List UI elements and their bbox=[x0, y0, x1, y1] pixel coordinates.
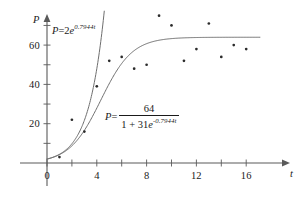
data-point bbox=[158, 14, 161, 17]
data-point bbox=[245, 48, 248, 51]
y-tick-label: 20 bbox=[29, 118, 40, 129]
data-point bbox=[183, 59, 186, 62]
data-point bbox=[170, 24, 173, 27]
data-point bbox=[232, 44, 235, 47]
x-tick-label: 4 bbox=[94, 170, 99, 181]
x-axis-arrow-icon bbox=[282, 160, 290, 167]
data-point bbox=[83, 130, 86, 133]
x-axis-label: t bbox=[290, 168, 293, 179]
exponential-exponent: 0.7944t bbox=[74, 23, 95, 30]
logistic-denominator: 1 + 31e-0.7944t bbox=[119, 117, 178, 130]
logistic-fraction: 641 + 31e-0.7944t bbox=[119, 103, 178, 130]
logistic-denominator-lead: 1 + 31 bbox=[121, 118, 148, 129]
data-point bbox=[133, 67, 136, 70]
data-point bbox=[95, 85, 98, 88]
logistic-curve bbox=[47, 37, 260, 159]
data-point bbox=[220, 56, 223, 59]
y-axis-label: P bbox=[33, 14, 39, 25]
data-point bbox=[208, 22, 211, 25]
data-point bbox=[71, 118, 74, 121]
x-tick-label: 8 bbox=[144, 170, 149, 181]
x-tick-label: 12 bbox=[191, 170, 202, 181]
data-point bbox=[195, 48, 198, 51]
axes-group bbox=[20, 14, 290, 186]
logistic-equals: = bbox=[111, 111, 117, 122]
y-tick-label: 40 bbox=[29, 79, 40, 90]
x-tick-label: 0 bbox=[45, 170, 50, 181]
y-tick-label: 60 bbox=[29, 40, 40, 51]
exponential-equation-label: P=2e0.7944t bbox=[52, 23, 96, 36]
data-point bbox=[120, 56, 123, 59]
data-point bbox=[58, 156, 61, 159]
data-point bbox=[108, 59, 111, 62]
growth-model-figure: P t 0481216 204060 P=2e0.7944t P=641 + 3… bbox=[0, 0, 306, 199]
logistic-equation-label: P=641 + 31e-0.7944t bbox=[105, 103, 179, 130]
logistic-numerator: 64 bbox=[119, 103, 178, 115]
x-tick-label: 16 bbox=[241, 170, 252, 181]
y-axis-arrow-icon bbox=[44, 14, 51, 22]
logistic-denominator-exponent: -0.7944t bbox=[153, 117, 177, 124]
data-point bbox=[145, 63, 148, 66]
